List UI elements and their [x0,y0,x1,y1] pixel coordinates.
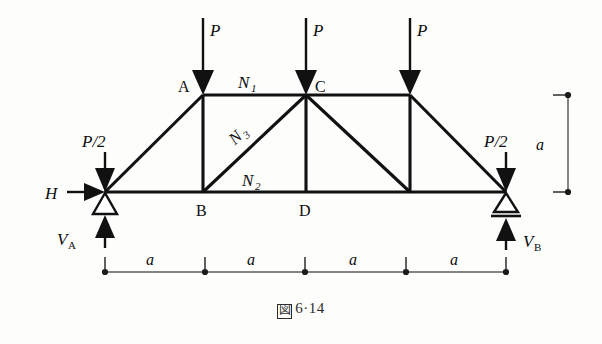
label-dimension-height: a [536,136,544,153]
dim-dot-top [565,92,571,98]
truss-diagram-svg: P P P P/2 P/2 H V A V B A B C D N 1 N 2 [0,0,602,344]
dimension-line-horizontal [102,257,509,275]
label-node-d: D [299,202,311,219]
label-reaction-va-sub: A [68,239,76,251]
label-node-b: B [196,202,207,219]
label-dimension-span-3: a [349,251,357,268]
label-node-c: C [315,78,326,95]
arrowhead-p-half-left [95,168,115,192]
support-pin-left [93,193,117,214]
label-load-p-half-right: P/2 [483,132,508,151]
label-member-n1-sub: 1 [251,82,257,94]
arrowhead-p3 [399,70,421,95]
label-member-n2-sub: 2 [255,180,261,192]
load-arrow-h [67,183,105,201]
arrowhead-va [95,215,115,238]
caption-number: 6·14 [295,300,325,316]
label-reaction-vb-sub: B [534,241,541,253]
label-member-n1: N 1 [237,73,257,94]
member-diagonal-cf [306,95,410,192]
figure-caption: 図6·14 [0,300,602,318]
roller-triangle [494,193,518,212]
dim-dot-bottom [565,189,571,195]
dim-dot-1 [202,269,208,275]
support-roller-right [491,193,521,216]
truss-figure: P P P P/2 P/2 H V A V B A B C D N 1 N 2 [0,0,602,344]
label-load-p3: P [416,21,427,40]
dim-dot-0 [102,269,108,275]
pin-triangle [93,193,117,214]
label-load-h: H [44,184,59,203]
label-member-n1-base: N [237,73,251,92]
label-load-p1: P [209,21,220,40]
member-left-end-post [105,95,203,192]
member-diagonal-n3 [203,95,306,192]
dim-dot-3 [403,269,409,275]
dim-dot-4 [503,269,509,275]
label-reaction-va: V A [57,230,76,251]
label-dimension-span-4: a [450,251,458,268]
label-member-n3: N 3 [224,121,253,150]
arrowhead-vb [496,218,516,241]
arrowhead-p1 [192,70,214,95]
label-load-p2: P [312,21,323,40]
arrowhead-p2 [295,70,317,95]
label-dimension-span-2: a [247,251,255,268]
caption-zu-glyph: 図 [277,304,292,319]
label-reaction-vb: V B [523,232,541,253]
label-dimension-span-1: a [146,251,154,268]
label-load-p-half-left: P/2 [81,132,106,151]
label-node-a: A [178,78,190,95]
truss-members [105,95,506,192]
reaction-arrow-vb [496,218,516,250]
arrowhead-p-half-right [496,168,516,192]
label-member-n2-base: N [241,171,255,190]
reaction-arrow-va [95,215,115,248]
label-member-n2: N 2 [241,171,261,192]
dimension-line-vertical [553,92,571,195]
dim-dot-2 [302,269,308,275]
